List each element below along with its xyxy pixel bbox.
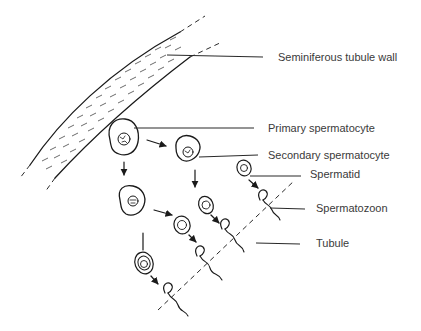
label-primary-spermatocyte: Primary spermatocyte [268,122,375,134]
spermatid-cell-4 [132,250,156,277]
spermatid-cell-2 [196,194,216,216]
label-spermatid: Spermatid [310,168,360,180]
label-seminiferous-tubule-wall: Seminiferous tubule wall [278,51,397,63]
spermatogenesis-diagram: Seminiferous tubule wall Primary spermat… [0,0,421,331]
primary-spermatocyte-cell [109,119,138,155]
label-secondary-spermatocyte: Secondary spermatocyte [268,149,390,161]
tubule-dashed-line [158,180,295,310]
spermatozoon-4 [164,283,188,316]
label-tubule: Tubule [316,237,349,249]
secondary-spermatocyte-cell-2 [119,186,145,216]
spermatid-cell-3 [171,214,192,236]
spermatozoon-3 [196,246,222,280]
arrows [124,140,258,284]
secondary-spermatocyte-cell-1 [176,136,200,161]
tubule-wall [20,16,222,192]
spermatid-cell-1 [235,158,254,178]
label-spermatozoon: Spermatozoon [316,202,388,214]
